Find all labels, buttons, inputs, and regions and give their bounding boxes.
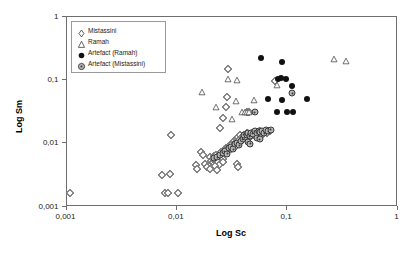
legend-label: Mistassini (88, 27, 117, 34)
x-tick-mark (286, 206, 287, 210)
x-tick-mark (66, 206, 67, 210)
y-axis-title: Log Sm (14, 100, 24, 133)
data-point-gray-circle (256, 136, 263, 143)
x-tick-label: 1 (394, 212, 398, 221)
y-tick-mark (62, 206, 66, 207)
x-tick-label: 0,1 (281, 212, 292, 221)
data-point-filled-circle (279, 59, 285, 65)
data-point-filled-circle (284, 109, 290, 115)
legend-label: Artefact (Ramah) (88, 49, 138, 56)
chart-legend: Mistassini Ramah Artefact (Ramah) Artefa… (71, 21, 166, 73)
data-point-open-triangle (233, 76, 240, 83)
x-axis-title: Log Sc (216, 228, 246, 238)
data-point-open-triangle (330, 55, 337, 62)
y-tick-label: 1 (54, 11, 58, 20)
data-point-open-triangle (232, 97, 239, 104)
x-tick-mark (397, 206, 398, 210)
y-tick-mark (62, 79, 66, 80)
data-point-filled-circle (265, 96, 271, 102)
filled-circle-icon (76, 47, 87, 58)
data-point-gray-circle (267, 126, 274, 133)
x-tick-label: 0,001 (55, 212, 75, 221)
data-point-filled-circle (283, 76, 289, 82)
data-point-gray-circle (289, 90, 296, 97)
y-tick-mark (62, 142, 66, 143)
legend-item-mistassini: Mistassini (76, 25, 161, 36)
data-point-filled-circle (304, 96, 310, 102)
data-point-open-triangle (343, 58, 350, 65)
data-point-gray-circle (251, 109, 258, 116)
data-point-filled-circle (279, 97, 285, 103)
gray-circle-icon (76, 58, 87, 69)
data-point-open-triangle (273, 81, 280, 88)
y-tick-label: 0,1 (47, 74, 58, 83)
data-point-filled-circle (274, 109, 280, 115)
data-point-filled-circle (258, 55, 264, 61)
legend-item-artefact-ramah: Artefact (Ramah) (76, 47, 161, 58)
data-point-open-triangle (225, 76, 232, 83)
data-point-filled-circle (289, 83, 295, 89)
y-tick-mark (62, 16, 66, 17)
data-point-open-triangle (251, 97, 258, 104)
data-point-open-triangle (198, 88, 205, 95)
legend-item-artefact-mistassini: Artefact (Mistassini) (76, 58, 161, 69)
legend-label: Ramah (88, 38, 109, 45)
scatter-chart: Mistassini Ramah Artefact (Ramah) Artefa… (0, 0, 413, 258)
x-tick-mark (176, 206, 177, 210)
data-point-open-triangle (228, 116, 235, 123)
data-point-gray-circle (247, 140, 254, 147)
legend-label: Artefact (Mistassini) (88, 60, 145, 67)
legend-item-ramah: Ramah (76, 36, 161, 47)
y-tick-label: 0,01 (43, 138, 59, 147)
data-point-open-triangle (213, 104, 220, 111)
open-triangle-icon (76, 36, 87, 47)
open-diamond-icon (76, 25, 87, 36)
y-tick-label: 0,001 (38, 201, 58, 210)
data-point-filled-circle (290, 109, 296, 115)
x-tick-label: 0,01 (168, 212, 184, 221)
